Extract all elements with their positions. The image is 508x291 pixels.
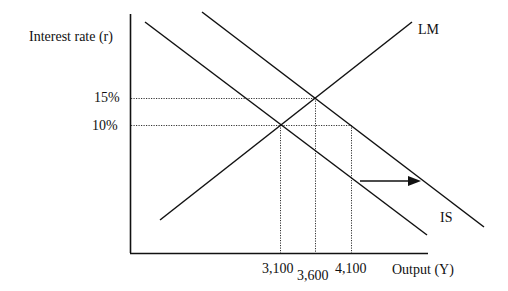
- tick-label-3600: 3,600: [297, 269, 329, 283]
- is-curve-initial: [145, 22, 427, 235]
- tick-label-15pct: 15%: [94, 91, 120, 105]
- tick-label-4100: 4,100: [335, 262, 367, 276]
- x-axis-label: Output (Y): [392, 263, 454, 277]
- tick-label-3100: 3,100: [262, 262, 294, 276]
- y-axis-label: Interest rate (r): [29, 30, 113, 44]
- tick-label-10pct: 10%: [92, 119, 118, 133]
- is-label: IS: [440, 211, 452, 225]
- lm-label: LM: [418, 23, 439, 37]
- guide-lines: [131, 98, 352, 253]
- lm-curve: [160, 22, 412, 220]
- shift-arrow-icon: [360, 176, 421, 186]
- is-curve-shifted: [202, 12, 484, 227]
